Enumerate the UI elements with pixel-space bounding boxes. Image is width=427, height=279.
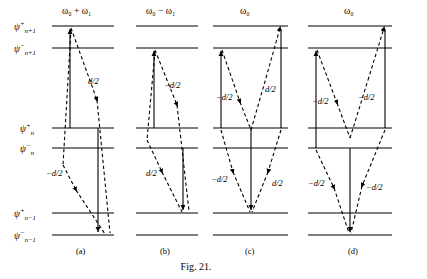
dashed-coupling-b-upper bbox=[155, 50, 177, 105]
figure-root: d/2 −d/2 ω₀ + ω₁ (a) −d/2 d/2 ω₀ − ω₁ (b… bbox=[0, 0, 427, 279]
amplitude-label: −d/2 bbox=[216, 92, 233, 102]
svg-text:ψ−n: ψ−n bbox=[20, 142, 35, 156]
panel-header-b: ω₀ − ω₁ bbox=[146, 6, 175, 16]
dashed-coupling-d-upper-right bbox=[368, 28, 384, 80]
state-label-psi-plus-n: ψ+n bbox=[20, 122, 35, 136]
panel-tag-d: (d) bbox=[348, 246, 358, 256]
panel-tag-c: (c) bbox=[245, 246, 255, 256]
amplitude-label: −d/2 bbox=[358, 92, 375, 102]
dashed-coupling-c-upper-right bbox=[266, 28, 280, 78]
state-subscript: n bbox=[31, 149, 35, 156]
dashed-coupling-d-upper-right-tail bbox=[350, 80, 368, 138]
state-label-psi-minus-n-minus-1: ψ−n−1 bbox=[14, 229, 36, 243]
panel-tag-a: (a) bbox=[76, 246, 86, 256]
state-labels: ψ+n+1 ψ−n+1 ψ+n ψ−n ψ+n−1 ψ−n−1 bbox=[14, 20, 36, 243]
energy-level-diagram: d/2 −d/2 ω₀ + ω₁ (a) −d/2 d/2 ω₀ − ω₁ (b… bbox=[0, 0, 427, 279]
dashed-coupling-c-lower-right bbox=[268, 130, 281, 172]
amplitude-label: d/2 bbox=[272, 178, 284, 188]
amplitude-label: −d/2 bbox=[312, 96, 329, 106]
amplitude-label: −d/2 bbox=[164, 80, 181, 90]
panel-header-d: ω₀ bbox=[344, 6, 354, 16]
state-label-psi-plus-n-minus-1: ψ+n−1 bbox=[14, 207, 36, 221]
dashed-coupling-b-lower-tail bbox=[162, 172, 182, 212]
dashed-coupling-d-upper-left-tail bbox=[337, 103, 350, 138]
panel-c: −d/2 d/2 −d/2 d/2 ω₀ (c) bbox=[211, 6, 288, 256]
state-subscript: n−1 bbox=[25, 214, 36, 221]
amplitude-label: d/2 bbox=[88, 76, 100, 86]
state-subscript: n bbox=[31, 129, 35, 136]
dashed-coupling-d-lower-left-tail bbox=[334, 188, 349, 233]
panel-b: −d/2 d/2 ω₀ − ω₁ (b) bbox=[136, 6, 198, 256]
dashed-coupling-c-upper-left-tail bbox=[240, 102, 251, 130]
svg-text:ψ−n+1: ψ−n+1 bbox=[14, 42, 36, 56]
amplitude-label: d/2 bbox=[265, 84, 277, 94]
dashed-coupling-c-lower-right-tail bbox=[252, 172, 268, 212]
amplitude-label: −d/2 bbox=[366, 182, 383, 192]
dashed-coupling-c-lower-left-tail bbox=[233, 172, 250, 212]
state-label-psi-plus-n-plus-1: ψ+n+1 bbox=[14, 20, 36, 34]
svg-text:ψ+n+1: ψ+n+1 bbox=[14, 20, 36, 34]
svg-text:ψ+n−1: ψ+n−1 bbox=[14, 207, 36, 221]
dashed-coupling-d-lower-right-tail bbox=[351, 186, 362, 233]
amplitude-label: −d/2 bbox=[211, 174, 228, 184]
dashed-coupling-a-upper bbox=[71, 28, 97, 100]
panel-header-a: ω₀ + ω₁ bbox=[62, 6, 91, 16]
panel-a: d/2 −d/2 ω₀ + ω₁ (a) bbox=[46, 6, 114, 256]
state-subscript: n−1 bbox=[25, 236, 36, 243]
amplitude-label: −d/2 bbox=[308, 178, 325, 188]
state-subscript: n+1 bbox=[25, 27, 36, 34]
svg-text:ψ+n: ψ+n bbox=[20, 122, 35, 136]
dashed-coupling-a-lower bbox=[63, 165, 76, 190]
state-label-psi-minus-n: ψ−n bbox=[20, 142, 35, 156]
figure-caption: Fig. 21. bbox=[181, 261, 212, 272]
state-subscript: n+1 bbox=[25, 49, 36, 56]
dashed-coupling-c-upper-right-tail bbox=[251, 78, 266, 130]
panel-d: −d/2 −d/2 −d/2 −d/2 ω₀ (d) bbox=[308, 6, 392, 256]
state-label-psi-minus-n-plus-1: ψ−n+1 bbox=[14, 42, 36, 56]
svg-text:ψ−n−1: ψ−n−1 bbox=[14, 229, 36, 243]
amplitude-label: −d/2 bbox=[46, 168, 63, 178]
amplitude-label: d/2 bbox=[146, 168, 158, 178]
dashed-coupling-a-lower-tail bbox=[76, 190, 105, 234]
dashed-coupling-c-lower-left bbox=[221, 130, 233, 172]
dashed-coupling-d-lower-right bbox=[362, 130, 385, 186]
panel-header-c: ω₀ bbox=[240, 6, 250, 16]
panel-tag-b: (b) bbox=[160, 246, 170, 256]
